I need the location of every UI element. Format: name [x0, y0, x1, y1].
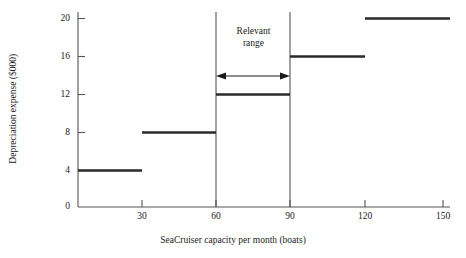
x-axis-title: SeaCruiser capacity per month (boats)	[0, 236, 466, 246]
relevant-range-annotation: Relevant range	[216, 26, 291, 49]
x-tick-label-120: 120	[358, 212, 372, 222]
y-axis-title: Depreciation expense ($000)	[9, 21, 19, 197]
y-tick-label-20: 20	[48, 14, 70, 24]
depreciation-step-chart: 20 16 12 8 4 0 30 60 90 120 150 Relevant…	[0, 0, 466, 258]
x-tick-label-150: 150	[436, 212, 450, 222]
relevant-range-arrow-head-left	[216, 72, 226, 79]
y-axis-ticks	[78, 19, 85, 171]
relevant-range-annotation-line1: Relevant	[216, 26, 291, 38]
y-tick-label-4: 4	[48, 166, 70, 176]
y-tick-label-12: 12	[48, 90, 70, 100]
x-tick-label-90: 90	[285, 212, 295, 222]
y-tick-label-16: 16	[48, 52, 70, 62]
relevant-range-arrow	[216, 72, 290, 79]
y-tick-label-0: 0	[48, 202, 70, 212]
relevant-range-arrow-head-right	[280, 72, 290, 79]
x-tick-label-60: 60	[211, 212, 221, 222]
x-tick-label-30: 30	[137, 212, 147, 222]
x-axis-ticks	[142, 200, 443, 207]
y-tick-label-8: 8	[48, 128, 70, 138]
relevant-range-annotation-line2: range	[216, 38, 291, 50]
